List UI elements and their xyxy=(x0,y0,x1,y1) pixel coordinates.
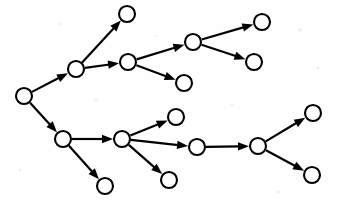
background-speck xyxy=(95,99,97,101)
background-speck xyxy=(298,28,301,31)
graph-node-n10[interactable] xyxy=(114,131,130,147)
graph-edge xyxy=(30,103,57,133)
edge-arrowhead xyxy=(242,24,254,32)
edge-arrowhead xyxy=(294,118,306,127)
background-speck xyxy=(155,35,157,37)
graph-edge xyxy=(72,135,113,143)
edge-line xyxy=(202,27,245,39)
graph-edge xyxy=(206,142,249,150)
edge-line xyxy=(130,124,159,136)
edge-arrowhead xyxy=(164,72,176,80)
edge-layer xyxy=(30,21,305,180)
edge-line xyxy=(32,78,60,92)
graph-node-n8[interactable] xyxy=(55,131,71,147)
graph-node-n6[interactable] xyxy=(254,14,270,30)
graph-edge xyxy=(82,21,121,63)
edge-line xyxy=(202,45,237,56)
graph-svg xyxy=(0,0,337,204)
graph-node-n15[interactable] xyxy=(305,105,321,121)
edge-line xyxy=(206,146,240,147)
edge-arrowhead xyxy=(108,61,119,69)
graph-edge xyxy=(129,145,162,174)
edge-line xyxy=(136,65,166,76)
graph-node-n2[interactable] xyxy=(119,6,135,22)
edge-line xyxy=(129,145,155,168)
graph-edge xyxy=(69,146,99,180)
edge-line xyxy=(85,64,110,67)
edge-arrowhead xyxy=(177,141,188,149)
edge-arrowhead xyxy=(234,52,246,60)
edge-arrowhead xyxy=(56,73,68,82)
graph-node-n16[interactable] xyxy=(304,167,320,183)
graph-edge xyxy=(136,65,175,80)
edge-line xyxy=(131,140,179,145)
background-speck xyxy=(231,104,233,106)
edge-arrowhead xyxy=(102,135,113,143)
edge-line xyxy=(69,146,93,172)
graph-node-n13[interactable] xyxy=(161,172,177,188)
graph-node-n4[interactable] xyxy=(185,34,201,50)
graph-node-n14[interactable] xyxy=(250,138,266,154)
graph-node-n3[interactable] xyxy=(120,54,136,70)
node-layer xyxy=(16,6,321,194)
graph-node-n11[interactable] xyxy=(168,109,184,125)
edge-arrowhead xyxy=(238,142,249,150)
edge-arrowhead xyxy=(173,44,185,52)
graph-edge xyxy=(137,44,185,59)
edge-line xyxy=(30,103,51,126)
graph-node-n5[interactable] xyxy=(176,75,192,91)
background-speck xyxy=(317,67,320,70)
edge-line xyxy=(266,123,297,142)
background-speck xyxy=(19,169,21,171)
graph-edge xyxy=(266,150,304,170)
graph-edge xyxy=(130,120,167,135)
graph-node-n0[interactable] xyxy=(16,88,32,104)
graph-node-n7[interactable] xyxy=(246,54,262,70)
graph-node-n1[interactable] xyxy=(68,61,84,77)
graph-edge xyxy=(85,61,119,69)
edge-arrowhead xyxy=(292,162,304,171)
graph-edge xyxy=(131,140,188,149)
graph-edge xyxy=(202,45,246,60)
edge-line xyxy=(266,150,296,166)
graph-edge xyxy=(202,24,254,40)
background-speck xyxy=(59,23,62,26)
edge-line xyxy=(137,47,176,59)
background-speck xyxy=(277,191,280,194)
edge-line xyxy=(82,28,114,63)
graph-edge xyxy=(266,118,306,142)
edge-arrowhead xyxy=(156,120,168,128)
graph-node-n12[interactable] xyxy=(189,139,205,155)
diagram-canvas xyxy=(0,0,337,204)
graph-edge xyxy=(32,73,68,92)
graph-node-n9[interactable] xyxy=(97,178,113,194)
